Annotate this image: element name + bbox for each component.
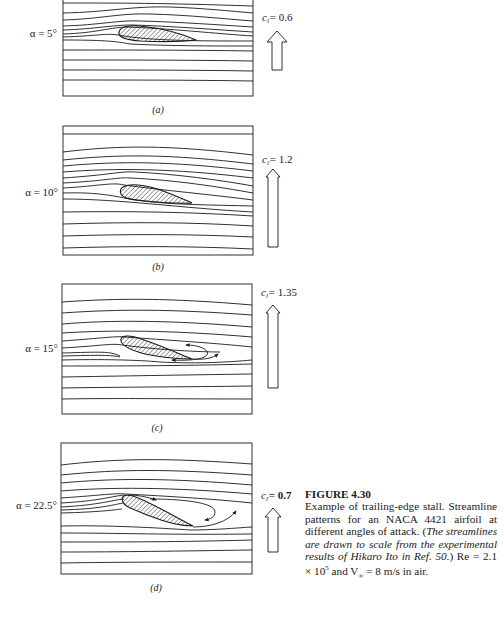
panel-c-cl-label: cl= 1.35 — [261, 286, 298, 300]
panel-a-lift-arrow — [267, 31, 287, 70]
figure-caption: FIGURE 4.30 Example of trailing-edge sta… — [305, 488, 497, 583]
panel-d-cl-label: cl= 0.7 — [261, 489, 292, 503]
panel-a-alpha-label: α = 5° — [30, 27, 57, 39]
panel-b — [63, 126, 253, 255]
panel-b-lift-arrow — [266, 169, 280, 247]
panel-c-lift-arrow — [266, 305, 280, 388]
panel-d-lift-arrow — [265, 508, 281, 552]
panel-a — [63, 0, 253, 96]
panel-a-airfoil — [119, 26, 196, 42]
panel-c-alpha-label: α = 15° — [25, 342, 58, 354]
caption-text-4: = 8 m/s in air. — [363, 565, 428, 577]
panel-c — [62, 284, 252, 414]
panel-d-alpha-label: α = 22.5° — [16, 499, 57, 511]
panel-b-airfoil — [120, 185, 192, 203]
panel-a-label: (a) — [152, 104, 164, 116]
panel-b-cl-label: cl= 1.2 — [262, 153, 293, 167]
panel-d-airfoil — [122, 495, 193, 526]
panel-a-cl-label: cl= 0.6 — [262, 11, 293, 25]
figure-number: FIGURE 4.30 — [305, 488, 497, 500]
caption-text-3: and V — [329, 565, 359, 577]
panel-d — [61, 443, 252, 574]
panel-d-label: (d) — [150, 582, 162, 594]
panel-b-label: (b) — [152, 261, 164, 273]
panel-c-label: (c) — [151, 422, 163, 434]
panel-b-alpha-label: α = 10° — [25, 186, 58, 198]
